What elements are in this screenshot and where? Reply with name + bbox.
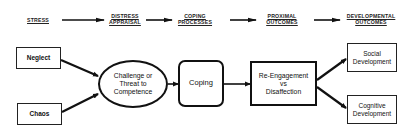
stage-header-proximal-outcomes: PROXIMAL OUTCOMES: [258, 13, 306, 25]
node-chaos: Chaos: [17, 103, 62, 125]
stage-header-developmental-outcomes: DEVELOPMENTAL OUTCOMES: [340, 13, 402, 25]
node-label: Coping: [189, 79, 213, 88]
stage-header-coping-processes: COPING PROCESSES: [172, 13, 218, 25]
node-label-line: Competence: [114, 88, 153, 96]
node-coping: Coping: [178, 60, 224, 107]
node-label-line: Social: [363, 50, 381, 58]
node-label: Neglect: [27, 54, 50, 63]
stage-header-line: STRESS: [18, 17, 58, 23]
node-social-development: Social Development: [347, 43, 397, 72]
arrow-chaos-to-appraisal: [62, 94, 98, 112]
node-label: Chaos: [30, 110, 50, 119]
stage-header-line: APPRAISAL: [102, 19, 148, 25]
node-label-line: Cognitive: [358, 102, 385, 110]
node-neglect: Neglect: [16, 47, 61, 69]
arrow-proximal-to-social: [317, 59, 346, 80]
arrow-neglect-to-appraisal: [61, 60, 98, 76]
node-label-line: Disaffection: [266, 88, 301, 96]
node-label-line: Re-Engagement: [259, 72, 309, 80]
node-label-line: Development: [353, 110, 391, 118]
node-reengagement-disaffection: Re-Engagement vs Disaffection: [250, 61, 317, 106]
node-label-line: vs: [280, 80, 287, 88]
node-label-line: Challenge or: [114, 72, 153, 80]
stage-header-stress: STRESS: [18, 17, 58, 23]
node-challenge-threat: Challenge or Threat to Competence: [98, 60, 168, 108]
stage-header-line: OUTCOMES: [340, 19, 402, 25]
node-cognitive-development: Cognitive Development: [347, 95, 397, 124]
stage-header-line: OUTCOMES: [258, 19, 306, 25]
stage-header-distress-appraisal: DISTRESS APPRAISAL: [102, 13, 148, 25]
arrow-proximal-to-cognitive: [317, 87, 346, 108]
node-label-line: Development: [353, 58, 391, 66]
node-label-line: Threat to: [119, 80, 146, 88]
stage-header-line: PROCESSES: [172, 19, 218, 25]
